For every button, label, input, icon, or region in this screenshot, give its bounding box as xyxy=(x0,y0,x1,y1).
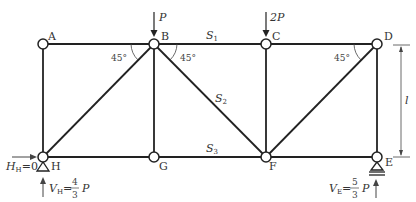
reaction-arrow-H-vertical xyxy=(40,177,46,197)
node-C xyxy=(261,39,271,49)
node-label-B: B xyxy=(161,30,169,43)
angle-arcs xyxy=(131,44,361,60)
reaction-H-numerator: 4 xyxy=(72,177,78,187)
reaction-H-var: P xyxy=(81,182,90,195)
angle-arc-B-left xyxy=(131,44,138,60)
truss-diagram: 45° 45° 45° P 2P S1 S2 S3 A xyxy=(0,0,416,202)
reaction-label-H-horizontal: HH=0 xyxy=(5,160,38,174)
node-label-H: H xyxy=(51,160,61,173)
member-label-S2: S2 xyxy=(215,92,227,106)
member-HB xyxy=(43,44,154,157)
node-label-E: E xyxy=(385,156,393,169)
node-G xyxy=(149,152,159,162)
dimension-label-l: l xyxy=(405,94,409,107)
member-label-S1: S1 xyxy=(206,29,218,43)
node-label-C: C xyxy=(272,30,280,43)
load-arrow-B xyxy=(151,12,158,37)
node-label-G: G xyxy=(159,160,168,173)
angle-arc-D xyxy=(354,44,361,60)
truss-members xyxy=(43,44,377,157)
node-label-D: D xyxy=(384,30,393,43)
reaction-E-var: P xyxy=(361,182,370,195)
reaction-E-numerator: 5 xyxy=(352,177,358,187)
node-H xyxy=(38,152,48,162)
load-label-C: 2P xyxy=(269,11,285,24)
angle-label-B-right: 45° xyxy=(180,53,196,63)
node-D xyxy=(372,39,382,49)
reaction-label-H-vertical: VH= xyxy=(49,182,72,196)
member-FD xyxy=(266,44,377,157)
member-BF xyxy=(154,44,266,157)
member-label-S3: S3 xyxy=(206,142,218,156)
angle-arc-B-right xyxy=(170,44,177,60)
node-A xyxy=(38,39,48,49)
reaction-arrow-E-vertical xyxy=(373,179,379,198)
angle-label-D: 45° xyxy=(334,53,350,63)
node-label-F: F xyxy=(269,160,277,173)
node-E xyxy=(372,152,382,162)
load-arrow-C xyxy=(263,12,270,37)
angle-label-B-left: 45° xyxy=(111,53,127,63)
reaction-label-E-vertical: VE= xyxy=(329,182,351,196)
load-label-B: P xyxy=(158,11,167,24)
node-label-A: A xyxy=(47,30,57,43)
reaction-H-denominator: 3 xyxy=(72,190,78,200)
roller-support-E xyxy=(369,162,385,175)
node-B xyxy=(149,39,159,49)
pin-support-H xyxy=(37,162,49,171)
reaction-E-denominator: 3 xyxy=(352,190,358,200)
